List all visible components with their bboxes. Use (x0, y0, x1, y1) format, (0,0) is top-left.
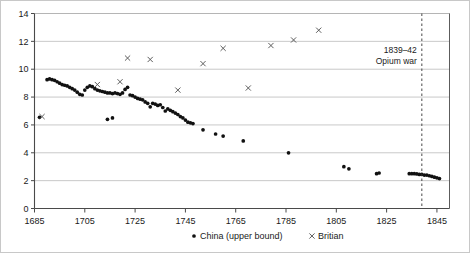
svg-text:0: 0 (23, 204, 28, 214)
svg-text:1685: 1685 (24, 216, 44, 226)
svg-text:Opium war: Opium war (376, 56, 417, 66)
annotation-opium-war: 1839–42Opium war (376, 14, 422, 209)
svg-text:1785: 1785 (276, 216, 296, 226)
svg-text:8: 8 (23, 92, 28, 102)
svg-text:2: 2 (23, 176, 28, 186)
y-axis-ticks: 02468101214 (18, 9, 34, 214)
gridlines (35, 14, 450, 181)
series-china-upper-bound (38, 77, 442, 180)
chart-figure: 02468101214 1685170517251745176517851805… (0, 0, 470, 253)
svg-text:1845: 1845 (427, 216, 447, 226)
x-axis-ticks: 168517051725174517651785180518251845 (24, 209, 446, 226)
svg-text:14: 14 (18, 9, 28, 19)
svg-text:1725: 1725 (125, 216, 145, 226)
svg-text:1839–42: 1839–42 (384, 45, 417, 55)
svg-text:1705: 1705 (75, 216, 95, 226)
svg-text:1805: 1805 (326, 216, 346, 226)
svg-text:1745: 1745 (175, 216, 195, 226)
svg-text:1825: 1825 (377, 216, 397, 226)
svg-text:4: 4 (23, 148, 28, 158)
plot-frame (35, 14, 450, 209)
svg-text:10: 10 (18, 64, 28, 74)
chart-legend: China (upper bound)Britian (192, 231, 343, 241)
svg-text:1765: 1765 (226, 216, 246, 226)
svg-text:China (upper bound): China (upper bound) (200, 231, 283, 241)
svg-text:12: 12 (18, 37, 28, 47)
svg-text:6: 6 (23, 120, 28, 130)
scatter-plot: 02468101214 1685170517251745176517851805… (1, 1, 470, 253)
svg-text:Britian: Britian (318, 231, 344, 241)
